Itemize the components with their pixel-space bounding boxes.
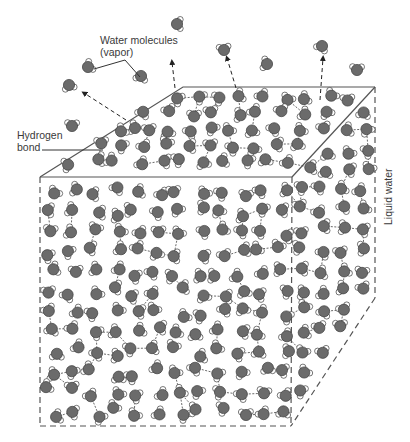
water-molecule xyxy=(253,288,266,303)
water-molecule xyxy=(341,122,354,137)
water-molecule xyxy=(316,121,331,134)
water-molecule xyxy=(165,269,177,284)
water-molecule xyxy=(252,225,266,239)
water-molecule xyxy=(291,138,306,150)
evaporation-arrow xyxy=(84,93,126,120)
water-molecule xyxy=(135,106,149,120)
hbond-label-line1: Hydrogen xyxy=(17,129,63,141)
water-molecule xyxy=(70,339,84,353)
water-molecule xyxy=(239,242,252,257)
water-molecule xyxy=(220,289,232,304)
water-molecule xyxy=(198,200,210,215)
evaporation-arrow xyxy=(172,62,175,88)
water-molecule xyxy=(311,181,325,195)
water-molecule xyxy=(277,388,291,402)
water-molecule xyxy=(238,409,253,421)
water-molecule xyxy=(111,261,125,275)
water-molecule xyxy=(182,126,196,140)
water-molecule xyxy=(188,329,203,341)
water-molecule xyxy=(233,88,246,102)
water-molecule xyxy=(62,246,76,260)
water-molecule xyxy=(197,157,212,170)
water-molecule xyxy=(254,304,268,318)
water-molecule xyxy=(217,303,231,317)
water-molecule xyxy=(358,200,372,214)
water-molecule xyxy=(206,122,220,136)
water-molecule xyxy=(184,139,196,154)
water-molecule xyxy=(217,221,231,235)
water-molecule xyxy=(113,241,127,255)
water-molecule xyxy=(276,364,289,379)
water-molecule xyxy=(234,225,248,239)
water-molecule xyxy=(361,124,375,138)
water-molecule xyxy=(315,246,329,260)
water-molecule xyxy=(42,203,54,218)
water-molecule xyxy=(160,136,174,149)
water-diagram xyxy=(0,0,410,442)
water-molecule xyxy=(66,366,80,380)
water-molecule xyxy=(94,137,109,149)
water-molecule xyxy=(326,87,340,101)
water-molecule xyxy=(339,263,353,277)
water-molecule xyxy=(321,106,335,119)
water-molecule xyxy=(134,322,148,336)
water-molecule xyxy=(197,290,212,303)
water-molecule xyxy=(151,226,166,238)
water-molecule xyxy=(115,123,129,137)
water-molecule xyxy=(245,125,260,138)
water-molecules xyxy=(40,17,377,426)
water-molecule xyxy=(195,348,208,363)
water-molecule xyxy=(112,302,126,316)
water-molecule xyxy=(40,303,54,317)
vapor-label-line1: Water molecules xyxy=(100,34,178,46)
water-molecule xyxy=(149,207,163,221)
water-molecule xyxy=(171,17,183,32)
hydrogen-bond-label: Hydrogen bond xyxy=(17,141,63,153)
water-molecule xyxy=(199,186,213,200)
vapor-label: Water molecules (vapor) xyxy=(100,34,178,58)
water-molecule xyxy=(311,321,326,334)
water-molecule xyxy=(297,106,311,120)
water-molecule xyxy=(296,261,308,276)
water-molecule xyxy=(216,402,229,417)
water-molecule xyxy=(169,365,183,379)
water-molecule xyxy=(214,187,228,201)
water-molecule xyxy=(292,199,307,212)
water-molecule xyxy=(236,208,249,223)
water-molecule xyxy=(111,208,123,223)
water-molecule xyxy=(124,371,138,385)
water-molecule xyxy=(212,368,226,382)
water-molecule xyxy=(314,40,328,54)
water-molecule xyxy=(355,266,370,278)
water-molecule xyxy=(299,299,313,313)
water-molecule xyxy=(94,411,108,425)
water-molecule xyxy=(248,143,262,156)
water-molecule xyxy=(116,140,130,154)
water-molecule xyxy=(44,323,59,336)
water-molecule xyxy=(170,324,184,338)
water-molecule xyxy=(49,348,64,360)
water-molecule xyxy=(252,185,266,199)
water-molecule xyxy=(273,104,288,117)
water-molecule xyxy=(114,223,128,237)
water-molecule xyxy=(49,185,63,199)
water-molecule xyxy=(233,389,247,403)
water-molecule xyxy=(87,187,99,202)
water-molecule xyxy=(294,181,308,195)
water-molecule xyxy=(171,154,185,168)
water-molecule xyxy=(229,268,243,282)
water-molecule xyxy=(189,402,201,417)
water-molecule xyxy=(257,203,271,217)
water-molecule xyxy=(84,241,97,256)
water-molecule xyxy=(213,386,226,401)
water-molecule xyxy=(333,246,348,259)
water-molecule xyxy=(133,184,146,199)
water-molecule xyxy=(355,281,369,294)
water-molecule xyxy=(315,265,328,280)
water-molecule xyxy=(217,153,230,168)
water-molecule xyxy=(315,345,330,358)
water-molecule xyxy=(68,265,83,277)
water-molecule xyxy=(360,145,374,159)
water-molecule xyxy=(103,152,117,166)
water-molecule xyxy=(350,64,365,76)
